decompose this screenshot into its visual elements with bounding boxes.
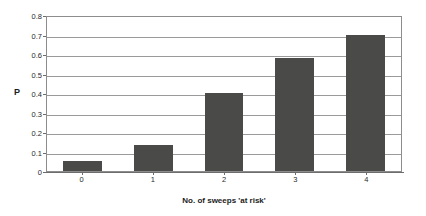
x-axis-tick-text: 0 (80, 175, 84, 184)
bar-slot (118, 17, 189, 171)
y-axis-tick-label: 0.4 (14, 90, 42, 99)
x-axis-tick-text: 4 (364, 175, 368, 184)
x-axis-tick-label: 4 (331, 175, 402, 184)
x-axis-tick-label: 1 (117, 175, 188, 184)
x-axis-tick-mark (153, 172, 154, 175)
y-axis-tick-label: 0.1 (14, 148, 42, 157)
bar (346, 35, 385, 172)
bars-group (47, 17, 401, 171)
y-axis-tick-label: 0.5 (14, 70, 42, 79)
x-axis-tick-mark (366, 172, 367, 175)
bar-slot (189, 17, 260, 171)
bar-slot (47, 17, 118, 171)
x-axis-tick-mark (82, 172, 83, 175)
x-axis-tick-label: 0 (46, 175, 117, 184)
y-axis-tick-label: 0.3 (14, 109, 42, 118)
bar (205, 93, 244, 171)
x-axis-tick-mark (224, 172, 225, 175)
x-axis-tick-labels: 01234 (46, 175, 402, 184)
bar-slot (259, 17, 330, 171)
x-axis-tick-mark (295, 172, 296, 175)
y-axis-tick-label: 0.6 (14, 51, 42, 60)
bar-chart-figure: P 0.80.70.60.50.40.30.20.10 01234 No. of… (0, 0, 426, 216)
x-axis-line (46, 172, 404, 173)
bar-slot (330, 17, 401, 171)
x-axis-tick-text: 2 (222, 175, 226, 184)
x-axis-tick-label: 3 (260, 175, 331, 184)
bar (63, 161, 102, 171)
plot-area (46, 16, 402, 172)
y-axis-tick-label: 0.8 (14, 12, 42, 21)
x-axis-tick-text: 1 (151, 175, 155, 184)
x-axis-tick-text: 3 (293, 175, 297, 184)
bar (275, 58, 314, 171)
bar (134, 145, 173, 171)
y-axis-tick-label: 0.7 (14, 31, 42, 40)
x-axis-title: No. of sweeps 'at risk' (46, 196, 402, 205)
x-axis-tick-label: 2 (188, 175, 259, 184)
y-axis-tick-label: 0.2 (14, 129, 42, 138)
y-axis-tick-label: 0 (14, 168, 42, 177)
